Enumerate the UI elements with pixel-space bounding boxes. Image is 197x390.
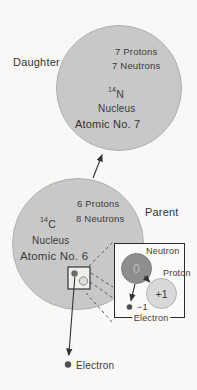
parent-isotope-mass: 14 xyxy=(40,216,48,223)
daughter-neutrons-label: 7 Neutrons xyxy=(112,60,160,71)
daughter-label: Daughter xyxy=(13,56,60,68)
inset-electron-charge: −1 xyxy=(137,302,148,312)
decay-arrow xyxy=(93,155,102,178)
source-proton-circle xyxy=(79,277,87,285)
inset-proton-label: Proton xyxy=(163,268,191,278)
emitted-electron-label: Electron xyxy=(76,360,114,371)
daughter-isotope-symbol: N xyxy=(116,88,124,100)
inset-electron-dot xyxy=(127,304,133,310)
parent-isotope-label: 14C xyxy=(40,217,56,230)
parent-protons-label: 6 Protons xyxy=(77,198,119,209)
neutron-to-electron-arrow xyxy=(131,284,135,301)
daughter-isotope-mass: 14 xyxy=(108,86,116,93)
beta-decay-diagram: Daughter 7 Protons 7 Neutrons 14N Nucleu… xyxy=(0,0,197,390)
inset-neutron-label: Neutron xyxy=(146,246,179,256)
parent-nucleus-label: Nucleus xyxy=(32,235,70,246)
emitted-electron-dot xyxy=(65,361,71,367)
source-neutron-dot xyxy=(71,270,77,276)
daughter-protons-label: 7 Protons xyxy=(115,46,157,57)
neutron-to-proton-arrow xyxy=(144,276,150,282)
inset-electron-label: Electron xyxy=(132,313,171,323)
magnified-inset-box: Neutron Proton 0 +1 −1 Electron xyxy=(114,243,185,318)
daughter-isotope-label: 14N xyxy=(108,87,124,100)
daughter-atomic-number-label: Atomic No. 7 xyxy=(75,118,140,130)
parent-isotope-symbol: C xyxy=(48,218,56,230)
daughter-nucleus-label: Nucleus xyxy=(98,103,136,114)
parent-atomic-number-label: Atomic No. 6 xyxy=(20,250,88,262)
parent-label: Parent xyxy=(145,206,179,218)
parent-neutrons-label: 8 Neutrons xyxy=(76,213,124,224)
